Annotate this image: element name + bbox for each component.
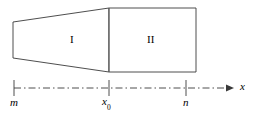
tick-label-m: m	[10, 97, 18, 108]
tick-label-n: n	[183, 97, 189, 108]
region-1-shape	[13, 8, 109, 72]
geometry-figure: I II m x0 n x	[0, 0, 254, 115]
x-axis-label: x	[240, 81, 245, 92]
figure-canvas	[0, 0, 254, 115]
tick-label-x0: x0	[102, 96, 111, 110]
x-axis-arrowhead	[226, 85, 234, 92]
region-2-label: II	[147, 34, 154, 45]
region-1-label: I	[70, 34, 74, 45]
tick-label-x0-subscript: 0	[107, 103, 111, 112]
